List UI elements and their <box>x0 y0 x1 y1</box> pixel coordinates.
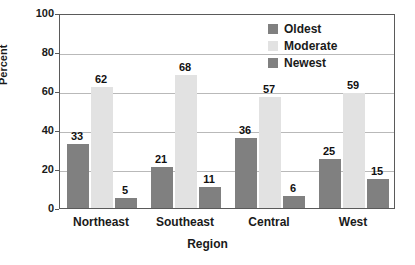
bar-value-label: 11 <box>192 173 226 185</box>
legend-swatch-icon-moderate <box>268 41 278 51</box>
bar-value-label: 59 <box>336 79 370 91</box>
x-axis-title: Region <box>0 237 415 251</box>
legend-swatch-icon-newest <box>268 58 278 68</box>
legend-label-newest: Newest <box>284 57 326 69</box>
legend-item-oldest: Oldest <box>268 22 337 36</box>
bar-value-label: 6 <box>276 182 310 194</box>
plot-area <box>59 14 395 209</box>
bar <box>175 75 197 208</box>
y-tick-label: 0 <box>26 202 54 214</box>
legend-label-moderate: Moderate <box>284 40 337 52</box>
bar <box>151 167 173 208</box>
bar-value-label: 68 <box>168 61 202 73</box>
bar-value-label: 57 <box>252 83 286 95</box>
y-tick-label: 40 <box>26 124 54 136</box>
bar-value-label: 36 <box>228 124 262 136</box>
bar <box>283 196 305 208</box>
y-tick-label: 80 <box>26 46 54 58</box>
bar <box>115 198 137 208</box>
bar <box>235 138 257 208</box>
bar <box>67 144 89 208</box>
legend-label-oldest: Oldest <box>284 23 321 35</box>
bar-chart: Percent 020406080100 3362521681136576255… <box>0 0 415 265</box>
y-tick-label: 20 <box>26 163 54 175</box>
bar-value-label: 15 <box>360 165 394 177</box>
y-tick-mark <box>55 209 59 210</box>
y-axis-title: Percent <box>0 45 9 85</box>
bar-value-label: 25 <box>312 145 346 157</box>
bar <box>199 187 221 208</box>
y-tick-label: 100 <box>26 7 54 19</box>
legend-item-newest: Newest <box>268 56 337 70</box>
bar <box>343 93 365 208</box>
bar <box>367 179 389 208</box>
x-tick-label: West <box>303 215 403 229</box>
bar <box>319 159 341 208</box>
gridline <box>60 54 394 55</box>
legend-item-moderate: Moderate <box>268 39 337 53</box>
bar-value-label: 33 <box>60 130 94 142</box>
bar-value-label: 21 <box>144 153 178 165</box>
legend-swatch-icon-oldest <box>268 24 278 34</box>
y-tick-label: 60 <box>26 85 54 97</box>
bar-value-label: 5 <box>108 184 142 196</box>
bar-value-label: 62 <box>84 73 118 85</box>
legend: Oldest Moderate Newest <box>268 22 337 70</box>
